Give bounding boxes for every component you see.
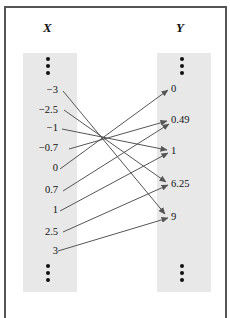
arrow-3-to-9 — [58, 218, 168, 251]
arrow-neg3-to-9 — [63, 91, 165, 214]
arrow-2.5-to-6.25 — [63, 185, 168, 232]
arrow-1-to-1 — [60, 153, 168, 211]
arrow-0-to-0 — [60, 90, 168, 169]
